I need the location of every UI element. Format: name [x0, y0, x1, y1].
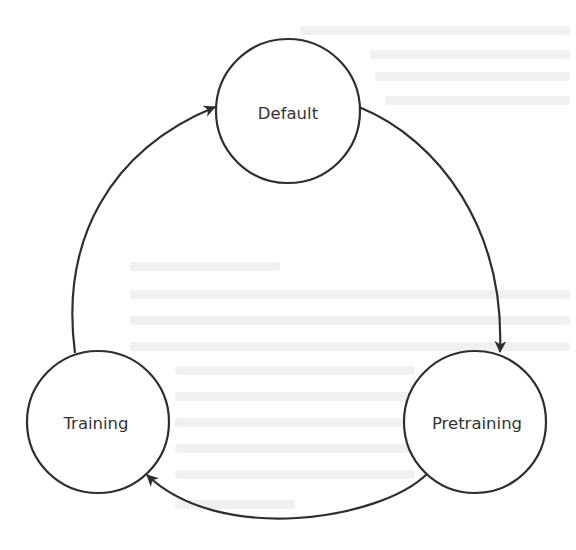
edge-pretraining-to-training — [147, 474, 427, 519]
node-default: Default — [216, 39, 360, 183]
edge-training-to-default — [72, 107, 215, 353]
node-pretraining: Pretraining — [404, 351, 546, 493]
edge-default-to-pretraining — [359, 107, 500, 352]
node-training: Training — [27, 351, 169, 493]
state-cycle-diagram: Default Pretraining Training — [0, 0, 576, 550]
node-training-label: Training — [62, 414, 128, 433]
node-default-label: Default — [258, 104, 319, 123]
node-pretraining-label: Pretraining — [432, 414, 522, 433]
